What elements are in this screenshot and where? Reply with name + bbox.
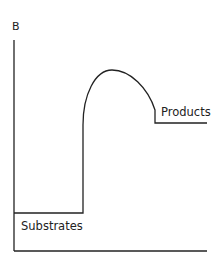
axis-label: B <box>12 21 20 32</box>
substrates-label: Substrates <box>21 221 83 233</box>
reaction-curve <box>14 70 207 213</box>
products-label: Products <box>161 107 211 119</box>
